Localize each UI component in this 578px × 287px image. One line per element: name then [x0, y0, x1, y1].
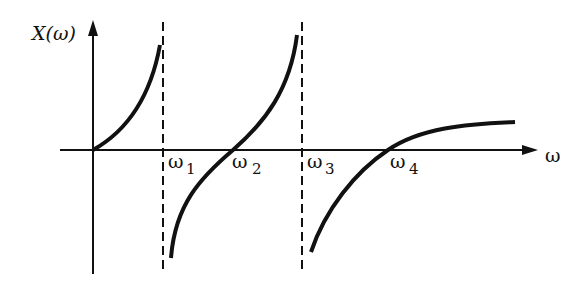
x-axis-arrow-icon	[522, 145, 538, 155]
svg-text:4: 4	[409, 160, 419, 178]
curve-branch-3	[311, 122, 515, 252]
marker-omega-4: ω 4	[390, 150, 419, 178]
svg-text:3: 3	[325, 160, 335, 178]
svg-text:2: 2	[252, 160, 262, 178]
x-axis-label: ω	[545, 144, 561, 166]
y-axis-label: X(ω)	[30, 22, 76, 44]
svg-text:ω: ω	[232, 150, 248, 172]
svg-text:ω: ω	[168, 150, 184, 172]
reactance-diagram: X(ω) ω ω 1 ω 2 ω 3 ω 4	[0, 0, 578, 287]
marker-omega-1: ω 1	[168, 150, 196, 178]
curve-branch-2	[171, 35, 297, 258]
curve-branch-1	[93, 45, 160, 150]
svg-text:ω: ω	[307, 150, 323, 172]
svg-text:ω: ω	[390, 150, 406, 172]
svg-text:1: 1	[186, 160, 196, 178]
marker-omega-2: ω 2	[232, 150, 262, 178]
marker-omega-3: ω 3	[307, 150, 335, 178]
y-axis-arrow-icon	[88, 20, 98, 36]
